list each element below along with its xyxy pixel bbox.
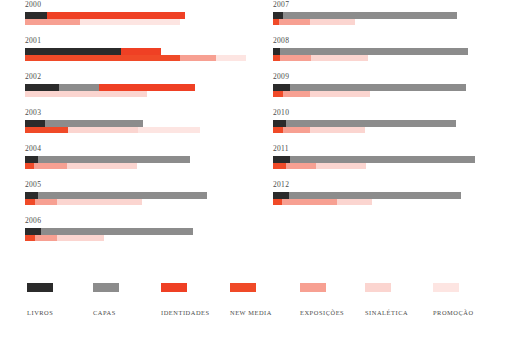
year-columns: 2000200120022003200420052006 20072008200… xyxy=(0,0,506,272)
year-group-2005: 2005 xyxy=(25,180,253,206)
legend-swatch-livros xyxy=(27,283,53,292)
bar-row-lower xyxy=(273,91,506,97)
legend-swatch-promocao xyxy=(433,283,459,292)
bar-row-lower xyxy=(25,127,253,133)
bar-row-lower xyxy=(273,55,506,61)
bar-segment-sinaletica xyxy=(311,55,368,61)
legend-label-promocao: PROMOÇÃO xyxy=(433,309,474,316)
bar-row-upper xyxy=(273,84,506,91)
legend-item-promocao[interactable]: PROMOÇÃO xyxy=(433,283,474,319)
bar-segment-new_media xyxy=(273,163,286,169)
stacked-bar-chart: 2000200120022003200420052006 20072008200… xyxy=(0,0,506,338)
bar-segment-promocao xyxy=(216,55,246,61)
bar-row-lower xyxy=(273,163,506,169)
legend-swatch-sinaletica xyxy=(365,283,391,292)
bar-stack xyxy=(273,48,506,61)
legend-item-sinaletica[interactable]: SINALÉTICA xyxy=(365,283,408,319)
bar-stack xyxy=(25,84,253,97)
bar-stack xyxy=(25,12,253,25)
bar-row-upper xyxy=(273,192,506,199)
bar-row-upper xyxy=(25,192,253,199)
bar-stack xyxy=(273,84,506,97)
year-group-2003: 2003 xyxy=(25,108,253,134)
bar-stack xyxy=(25,48,253,61)
legend-item-capas[interactable]: CAPAS xyxy=(93,283,119,319)
bar-segment-new_media xyxy=(25,55,180,61)
bar-segment-sinaletica xyxy=(25,91,147,97)
bar-segment-capas xyxy=(286,120,456,127)
bar-row-upper xyxy=(25,48,253,55)
bar-segment-identidades xyxy=(121,48,161,55)
legend-item-identidades[interactable]: IDENTIDADES xyxy=(161,283,210,319)
bar-segment-exposicoes xyxy=(34,163,67,169)
bar-segment-sinaletica xyxy=(337,199,372,205)
bar-row-upper xyxy=(25,12,253,19)
bar-row-upper xyxy=(25,228,253,235)
year-label: 2001 xyxy=(25,36,253,46)
bar-segment-livros xyxy=(25,156,38,163)
bar-segment-exposicoes xyxy=(280,55,311,61)
bar-stack xyxy=(273,192,506,205)
bar-row-lower xyxy=(25,199,253,205)
bar-segment-capas xyxy=(290,84,466,91)
legend-item-exposicoes[interactable]: EXPOSIÇÕES xyxy=(300,283,344,319)
year-group-2004: 2004 xyxy=(25,144,253,170)
year-label: 2011 xyxy=(273,144,506,154)
year-label: 2008 xyxy=(273,36,506,46)
bar-segment-new_media xyxy=(273,127,283,133)
bar-segment-exposicoes xyxy=(283,91,310,97)
bar-segment-livros xyxy=(25,192,38,199)
year-group-2011: 2011 xyxy=(273,144,506,170)
year-label: 2002 xyxy=(25,72,253,82)
bar-stack xyxy=(273,156,506,169)
bar-segment-livros xyxy=(25,48,121,55)
year-group-2007: 2007 xyxy=(273,0,506,26)
legend-label-exposicoes: EXPOSIÇÕES xyxy=(300,309,344,316)
bar-segment-sinaletica xyxy=(310,19,355,25)
legend-item-new_media[interactable]: NEW MEDIA xyxy=(230,283,272,319)
year-label: 2004 xyxy=(25,144,253,154)
year-label: 2007 xyxy=(273,0,506,10)
year-group-2001: 2001 xyxy=(25,36,253,62)
bar-segment-new_media xyxy=(25,235,35,241)
bar-segment-livros xyxy=(273,12,283,19)
year-label: 2010 xyxy=(273,108,506,118)
bar-segment-exposicoes xyxy=(283,127,310,133)
legend-swatch-new_media xyxy=(230,283,256,292)
bar-row-lower xyxy=(273,127,506,133)
bar-row-upper xyxy=(273,48,506,55)
chart-legend: LIVROSCAPASIDENTIDADESNEW MEDIAEXPOSIÇÕE… xyxy=(0,283,506,329)
bar-row-upper xyxy=(273,156,506,163)
bar-segment-sinaletica xyxy=(57,235,104,241)
legend-label-sinaletica: SINALÉTICA xyxy=(365,309,408,316)
legend-swatch-exposicoes xyxy=(300,283,326,292)
bar-segment-exposicoes xyxy=(25,19,80,25)
year-label: 2006 xyxy=(25,216,253,226)
bar-segment-new_media xyxy=(25,127,68,133)
bar-segment-exposicoes xyxy=(35,199,57,205)
year-column-right: 200720082009201020112012 xyxy=(253,0,506,272)
legend-swatch-capas xyxy=(93,283,119,292)
bar-row-upper xyxy=(273,120,506,127)
bar-row-lower xyxy=(25,163,253,169)
year-label: 2009 xyxy=(273,72,506,82)
bar-segment-exposicoes xyxy=(286,163,316,169)
bar-segment-sinaletica xyxy=(67,163,137,169)
year-group-2000: 2000 xyxy=(25,0,253,26)
legend-label-identidades: IDENTIDADES xyxy=(161,309,210,316)
bar-segment-capas xyxy=(283,12,457,19)
bar-segment-sinaletica xyxy=(68,127,138,133)
legend-item-livros[interactable]: LIVROS xyxy=(27,283,53,319)
bar-segment-livros xyxy=(273,192,289,199)
bar-segment-sinaletica xyxy=(316,163,366,169)
bar-segment-promocao xyxy=(138,127,200,133)
bar-segment-exposicoes xyxy=(282,199,337,205)
bar-segment-capas xyxy=(45,120,143,127)
bar-segment-identidades xyxy=(99,84,195,91)
bar-row-upper xyxy=(25,84,253,91)
bar-segment-capas xyxy=(59,84,99,91)
bar-segment-identidades xyxy=(47,12,185,19)
bar-segment-exposicoes xyxy=(180,55,216,61)
bar-stack xyxy=(25,120,253,133)
legend-label-new_media: NEW MEDIA xyxy=(230,309,272,316)
